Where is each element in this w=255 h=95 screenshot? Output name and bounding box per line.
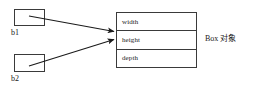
object-fields-table: width height depth [116,12,197,68]
reference-variable-box-b2 [14,54,45,72]
object-field-row: height [117,31,196,49]
object-reference-diagram: b1 b2 width height depth Box 对象 [0,0,255,95]
object-field-row: depth [117,50,196,67]
object-field-row: width [117,13,196,31]
reference-variable-box-b1 [14,9,45,26]
reference-variable-label-b1: b1 [11,28,19,37]
object-field-name-height: height [122,36,140,44]
object-field-name-depth: depth [122,54,138,62]
reference-variable-label-b2: b2 [11,74,19,83]
object-field-name-width: width [122,18,138,26]
object-caption-label: Box 对象 [205,34,236,44]
